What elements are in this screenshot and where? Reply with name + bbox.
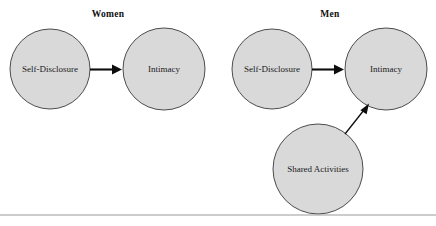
node-label-intimacy-women: Intimacy [148, 64, 180, 74]
node-men-shared-activities[interactable]: Shared Activities [273, 124, 363, 214]
arrow-head-icon-women [112, 65, 122, 75]
panel-women: Women Self-Disclosure Intimacy [10, 9, 205, 110]
panel-title-men: Men [320, 9, 340, 19]
arrow-head-icon-men-horizontal [334, 65, 344, 75]
edge-men-shared-activities-to-intimacy [345, 104, 369, 135]
node-women-self-disclosure[interactable]: Self-Disclosure [10, 29, 90, 109]
diagram-canvas: Women Self-Disclosure Intimacy Men [0, 0, 436, 226]
node-label-self-disclosure-men: Self-Disclosure [244, 64, 300, 74]
node-men-intimacy[interactable]: Intimacy [345, 28, 427, 110]
edge-women-self-disclosure-to-intimacy [90, 65, 122, 75]
node-label-self-disclosure-women: Self-Disclosure [22, 64, 78, 74]
node-women-intimacy[interactable]: Intimacy [123, 28, 205, 110]
panel-men: Men Self-Disclosure Intimacy Shared Acti… [232, 9, 427, 214]
edge-shaft-men-diagonal [345, 110, 364, 134]
node-men-self-disclosure[interactable]: Self-Disclosure [232, 29, 312, 109]
panel-title-women: Women [92, 9, 125, 19]
node-label-shared-activities-men: Shared Activities [287, 164, 349, 174]
node-label-intimacy-men: Intimacy [370, 64, 402, 74]
edge-men-self-disclosure-to-intimacy [312, 65, 344, 75]
diagram-figure: Women Self-Disclosure Intimacy Men [0, 0, 436, 226]
